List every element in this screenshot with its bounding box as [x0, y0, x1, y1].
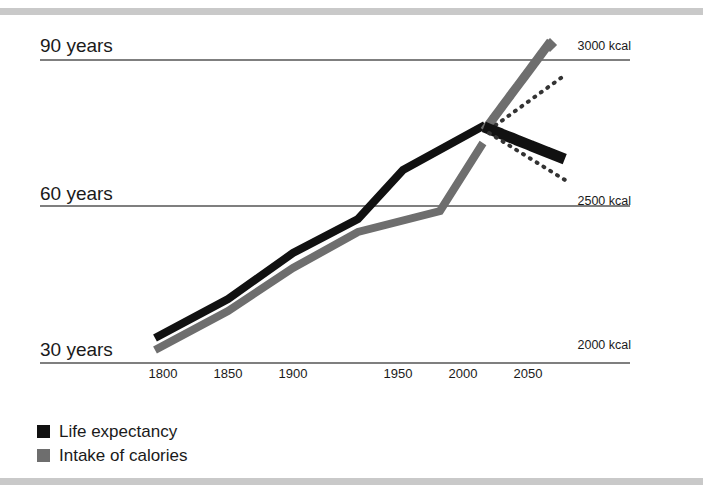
y-axis-label-2000-kcal: 2000 kcal: [511, 338, 631, 352]
x-axis-tick-2000: 2000: [433, 366, 493, 381]
series-line-life-expectancy: [155, 125, 485, 338]
y-axis-label-3000-kcal: 3000 kcal: [511, 39, 631, 53]
legend-label-life-expectancy: Life expectancy: [59, 423, 177, 440]
chart-legend: Life expectancy Intake of calories: [37, 419, 188, 467]
y-axis-label-60-years: 60 years: [40, 183, 113, 205]
y-axis-label-2500-kcal: 2500 kcal: [511, 194, 631, 208]
x-axis-tick-1950: 1950: [368, 366, 428, 381]
x-axis-tick-1850: 1850: [198, 366, 258, 381]
x-axis-tick-2050: 2050: [498, 366, 558, 381]
legend-swatch-icon-intake-of-calories: [37, 449, 50, 462]
legend-label-intake-of-calories: Intake of calories: [59, 447, 188, 464]
x-axis-tick-1800: 1800: [133, 366, 193, 381]
chart-figure: 90 years 60 years 30 years 3000 kcal 250…: [0, 0, 703, 495]
series-line-intake-of-calories: [155, 143, 483, 350]
y-axis-label-90-years: 90 years: [40, 35, 113, 57]
projection-intake-high-dashed: [487, 45, 548, 127]
legend-item-intake-of-calories: Intake of calories: [37, 443, 188, 467]
legend-swatch-icon-life-expectancy: [37, 425, 50, 438]
x-axis-tick-1900: 1900: [263, 366, 323, 381]
y-axis-label-30-years: 30 years: [40, 339, 113, 361]
legend-item-life-expectancy: Life expectancy: [37, 419, 188, 443]
